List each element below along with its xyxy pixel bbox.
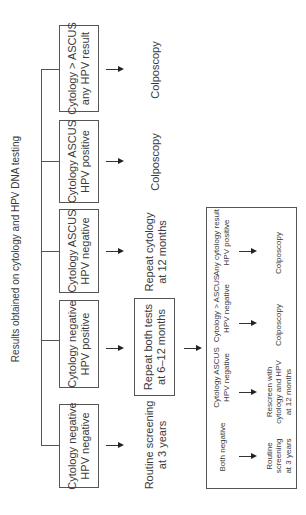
- arrow-icon: [239, 251, 255, 252]
- bracket-stub-3: [41, 251, 59, 252]
- bracket-stub-2: [41, 161, 59, 162]
- followup-cond-ascus-hpv-neg: Cytology ASCUS HPV negative: [208, 340, 236, 415]
- arrow-icon: [106, 251, 122, 252]
- result-box-neg-hpv-positive-text: Cytology negative HPV positive: [59, 300, 99, 388]
- bracket-stub-1: [41, 69, 59, 70]
- followup-cond-any-cytology-hpv-pos: Any cytology result HPV positive: [208, 205, 236, 280]
- result-box-greater-ascus-text: Cytology > ASCUS any HPV result: [59, 25, 99, 112]
- arrow-icon: [106, 69, 122, 70]
- arrow-icon: [106, 161, 122, 162]
- arrow-icon: [239, 456, 255, 457]
- followup-out-routine-screening: Routine screening at 3 years: [262, 426, 296, 486]
- followup-out-colposcopy-2: Colposcopy: [262, 223, 296, 283]
- followup-out-colposcopy-1: Colposcopy: [262, 295, 296, 355]
- arrow-icon: [106, 348, 122, 349]
- followup-cond-both-negative: Both negative: [208, 416, 238, 478]
- result-box-neg-hpv-negative-text: Cytology negative HPV negative: [59, 404, 99, 488]
- arrow-icon: [239, 392, 255, 393]
- outcome-colposcopy-2: Colposcopy: [140, 122, 170, 202]
- followup-out-rescreen: Rescreen with cytology and HPV at 12 mon…: [262, 354, 296, 430]
- result-box-ascus-hpv-positive-text: Cytology ASCUS HPV positive: [59, 120, 99, 203]
- result-box-ascus-hpv-negative-text: Cytology ASCUS HPV negative: [59, 209, 99, 293]
- bracket-stub-4: [41, 340, 59, 341]
- outcome-colposcopy-1: Colposcopy: [140, 30, 170, 110]
- diagram-title: Results obtained on cytology and HPV DNA…: [8, 120, 24, 378]
- bracket-stub-5: [41, 445, 59, 446]
- arrow-icon: [106, 445, 122, 446]
- followup-cond-greater-ascus-hpv-neg: Cytology > ASCUS HPV negative: [208, 271, 236, 346]
- outcome-repeat-both-tests: Repeat both tests at 6–12 months: [134, 298, 175, 396]
- outcome-routine-screening: Routine screening at 3 years: [140, 392, 172, 498]
- outcome-repeat-cytology: Repeat cytology at 12 months: [140, 202, 172, 302]
- arrow-icon: [184, 348, 200, 349]
- bracket-vertical-line: [41, 69, 42, 446]
- arrow-icon: [239, 323, 255, 324]
